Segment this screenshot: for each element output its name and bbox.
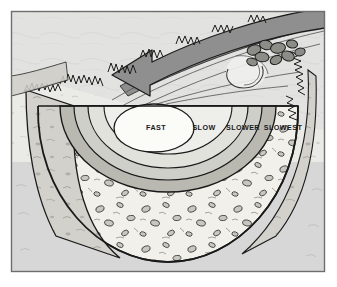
velocity-label-slower: SLOWER — [226, 123, 260, 132]
stream-velocity-diagram: FAST SLOW SLOWER SLOWEST — [0, 0, 337, 287]
scene-group: FAST SLOW SLOWER SLOWEST — [11, 8, 325, 272]
diagram-canvas: FAST SLOW SLOWER SLOWEST — [0, 0, 337, 287]
velocity-label-fast: FAST — [146, 123, 166, 132]
velocity-label-slow: SLOW — [192, 123, 215, 132]
